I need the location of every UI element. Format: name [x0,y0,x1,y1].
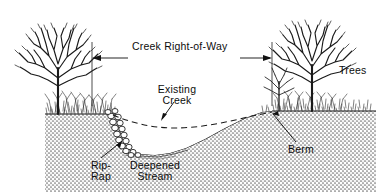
rip-rap-label: Rip- Rap [84,160,118,183]
deepened-stream-label-line2: Stream [126,171,184,182]
berm-label: Berm [288,144,314,155]
existing-creek-label: Existing Creek [146,84,208,107]
diagram-canvas: Creek Right-of-Way Trees Existing Creek … [0,0,376,192]
rip-rap-label-line2: Rap [84,171,118,182]
right-of-way-label: Creek Right-of-Way [132,41,227,52]
trees-label: Trees [339,65,366,76]
existing-creek-label-line2: Creek [146,95,208,106]
deepened-stream-label: Deepened Stream [126,160,184,183]
